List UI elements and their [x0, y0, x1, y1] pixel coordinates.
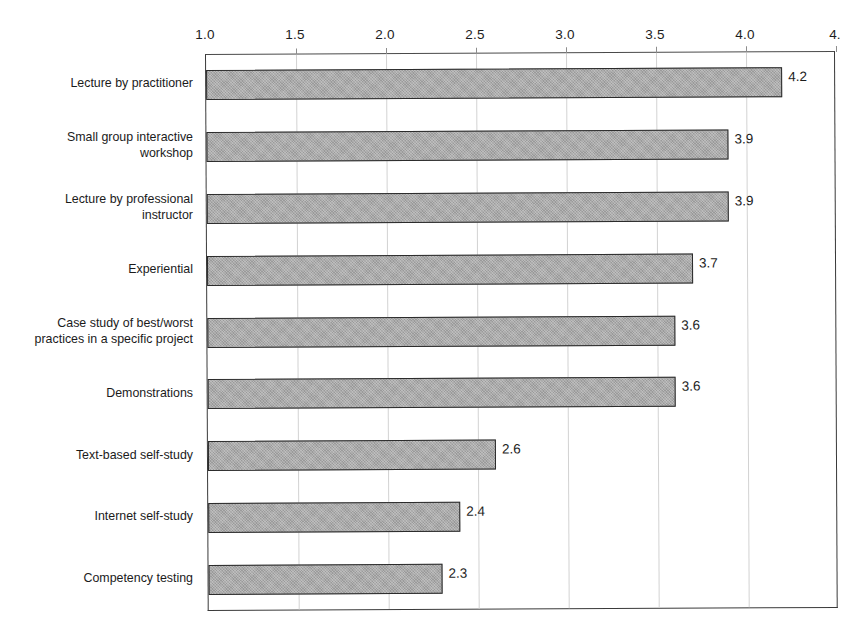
bar-row: 3.6 — [207, 299, 835, 364]
bar[interactable] — [208, 377, 676, 409]
bar-value-label: 3.6 — [681, 318, 700, 332]
bar-row: 2.4 — [208, 485, 836, 550]
bar-row: 3.9 — [207, 176, 835, 241]
bar-row: 2.3 — [208, 547, 836, 612]
bar[interactable] — [206, 129, 728, 162]
bar[interactable] — [207, 253, 693, 285]
category-label: Case study of best/worst practices in a … — [0, 316, 193, 347]
bars-group: 4.23.93.93.73.63.62.62.42.3 — [206, 52, 834, 55]
bar[interactable] — [208, 564, 442, 595]
x-axis-tick-mark — [836, 46, 837, 52]
category-label: Demonstrations — [0, 386, 193, 402]
category-label: Lecture by professional instructor — [0, 192, 193, 223]
category-label: Experiential — [0, 262, 193, 278]
bar[interactable] — [207, 191, 729, 224]
bar-value-label: 3.9 — [734, 132, 753, 146]
x-axis-tick-label: 2.5 — [465, 27, 484, 42]
x-axis-tick-label: 4. — [829, 27, 841, 42]
bar-row: 3.9 — [206, 114, 834, 179]
bar[interactable] — [208, 440, 496, 471]
x-axis-tick-label: 3.5 — [645, 27, 664, 42]
bar-value-label: 2.3 — [449, 567, 468, 581]
plot-area: 4.23.93.93.73.63.62.62.42.3 — [205, 51, 838, 611]
bar-value-label: 3.7 — [699, 256, 718, 270]
x-axis-tick-label: 1.0 — [195, 27, 214, 42]
x-axis-tick-label: 2.0 — [375, 27, 394, 42]
bar-row: 2.6 — [208, 423, 836, 488]
category-label: Small group interactive workshop — [0, 130, 193, 161]
bar-value-label: 2.4 — [466, 505, 485, 519]
bar-value-label: 3.9 — [735, 194, 754, 208]
category-label: Internet self-study — [0, 509, 193, 525]
bar-value-label: 3.6 — [682, 380, 701, 394]
bar-row: 3.7 — [207, 238, 835, 303]
bar[interactable] — [207, 315, 675, 347]
bar[interactable] — [206, 67, 782, 100]
category-label: Text-based self-study — [0, 448, 193, 464]
x-axis-tick-label: 4.0 — [735, 27, 754, 42]
x-axis-tick-label: 3.0 — [555, 27, 574, 42]
x-axis-tick-label: 1.5 — [285, 27, 304, 42]
bar-row: 4.2 — [206, 52, 834, 117]
bar-chart-figure: 1.01.52.02.53.03.54.04. Lecture by pract… — [0, 0, 847, 631]
category-label: Competency testing — [0, 571, 193, 587]
category-label: Lecture by practitioner — [0, 76, 193, 92]
bar[interactable] — [208, 502, 460, 533]
bar-row: 3.6 — [208, 361, 836, 426]
bar-value-label: 4.2 — [788, 70, 807, 84]
bar-value-label: 2.6 — [502, 443, 521, 457]
